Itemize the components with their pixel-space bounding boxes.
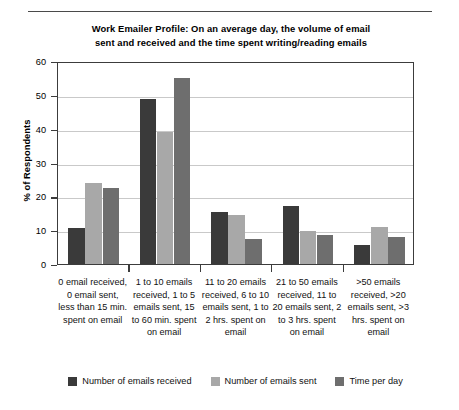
y-tick-label: 10 bbox=[36, 226, 46, 236]
chart-figure: Work Emailer Profile: On an average day,… bbox=[0, 0, 459, 410]
bar bbox=[85, 183, 102, 264]
bar bbox=[211, 212, 228, 264]
y-tick-label: 30 bbox=[36, 159, 46, 169]
y-tick-label: 50 bbox=[36, 91, 46, 101]
x-axis-label: 21 to 50 emails received, 11 to 20 email… bbox=[272, 276, 341, 339]
chart-title-line-1: Work Emailer Profile: On an average day,… bbox=[46, 22, 416, 36]
legend-swatch bbox=[335, 377, 344, 386]
bar bbox=[371, 227, 388, 264]
legend-item[interactable]: Number of emails received bbox=[68, 376, 191, 386]
bar bbox=[174, 78, 191, 264]
legend-label: Number of emails sent bbox=[225, 376, 317, 386]
legend-label: Number of emails received bbox=[82, 376, 191, 386]
x-axis-label: 0 email received, 0 email sent, less tha… bbox=[58, 276, 127, 326]
chart-title-line-2: sent and received and the time spent wri… bbox=[46, 36, 416, 50]
bar bbox=[157, 132, 174, 264]
x-tick-mark bbox=[343, 265, 344, 272]
legend-item[interactable]: Time per day bbox=[335, 376, 402, 386]
bar bbox=[228, 215, 245, 264]
legend-label: Time per day bbox=[349, 376, 402, 386]
bar bbox=[388, 237, 405, 264]
chart-legend: Number of emails receivedNumber of email… bbox=[57, 376, 414, 386]
legend-swatch bbox=[211, 377, 220, 386]
y-tick-mark bbox=[51, 265, 57, 266]
x-axis-label: 11 to 20 emails received, 6 to 10 emails… bbox=[201, 276, 270, 339]
bar bbox=[245, 239, 262, 264]
bar bbox=[354, 245, 371, 264]
x-tick-mark bbox=[200, 265, 201, 272]
plot-area bbox=[57, 62, 414, 265]
y-axis-ticks: 0102030405060 bbox=[0, 62, 57, 265]
bar bbox=[68, 228, 85, 264]
x-axis-labels: 0 email received, 0 email sent, less tha… bbox=[57, 276, 414, 358]
bar bbox=[103, 188, 120, 264]
x-axis-label: >50 emails received, >20 emails sent, >3… bbox=[344, 276, 413, 339]
chart-title: Work Emailer Profile: On an average day,… bbox=[46, 22, 416, 49]
y-tick-label: 60 bbox=[36, 57, 46, 67]
y-tick-label: 40 bbox=[36, 125, 46, 135]
x-tick-mark bbox=[271, 265, 272, 272]
bars-layer bbox=[58, 63, 413, 264]
header-divider bbox=[28, 11, 432, 12]
bar bbox=[283, 206, 300, 264]
x-tick-mark bbox=[128, 265, 129, 272]
y-tick-label: 0 bbox=[41, 260, 46, 270]
legend-item[interactable]: Number of emails sent bbox=[211, 376, 317, 386]
bar bbox=[300, 231, 317, 264]
bar bbox=[140, 99, 157, 264]
y-tick-label: 20 bbox=[36, 192, 46, 202]
x-axis-label: 1 to 10 emails received, 1 to 5 emails s… bbox=[129, 276, 198, 339]
legend-swatch bbox=[68, 377, 77, 386]
bar bbox=[317, 235, 334, 264]
